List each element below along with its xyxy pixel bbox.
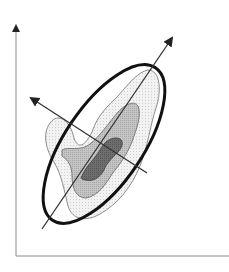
diagram-canvas [0, 0, 229, 272]
pca-diagram [0, 0, 229, 272]
